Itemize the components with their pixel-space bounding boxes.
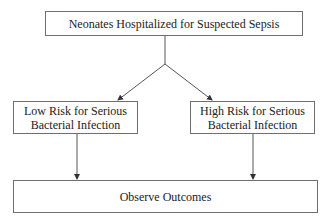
node-label-line1: Low Risk for Serious — [24, 104, 127, 118]
node-label: Observe Outcomes — [120, 190, 212, 204]
node-label-line2: Bacterial Infection — [24, 118, 127, 132]
node-high-risk: High Risk for Serious Bacterial Infectio… — [190, 101, 315, 134]
node-observe-outcomes: Observe Outcomes — [13, 180, 318, 213]
node-label: Neonates Hospitalized for Suspected Seps… — [69, 17, 280, 31]
arrow-to-high-risk — [165, 64, 212, 100]
node-label-line1: High Risk for Serious — [200, 104, 305, 118]
node-low-risk: Low Risk for Serious Bacterial Infection — [13, 101, 138, 134]
arrow-to-low-risk — [118, 64, 165, 100]
node-neonates-hospitalized: Neonates Hospitalized for Suspected Seps… — [45, 11, 303, 36]
node-label-line2: Bacterial Infection — [200, 118, 305, 132]
